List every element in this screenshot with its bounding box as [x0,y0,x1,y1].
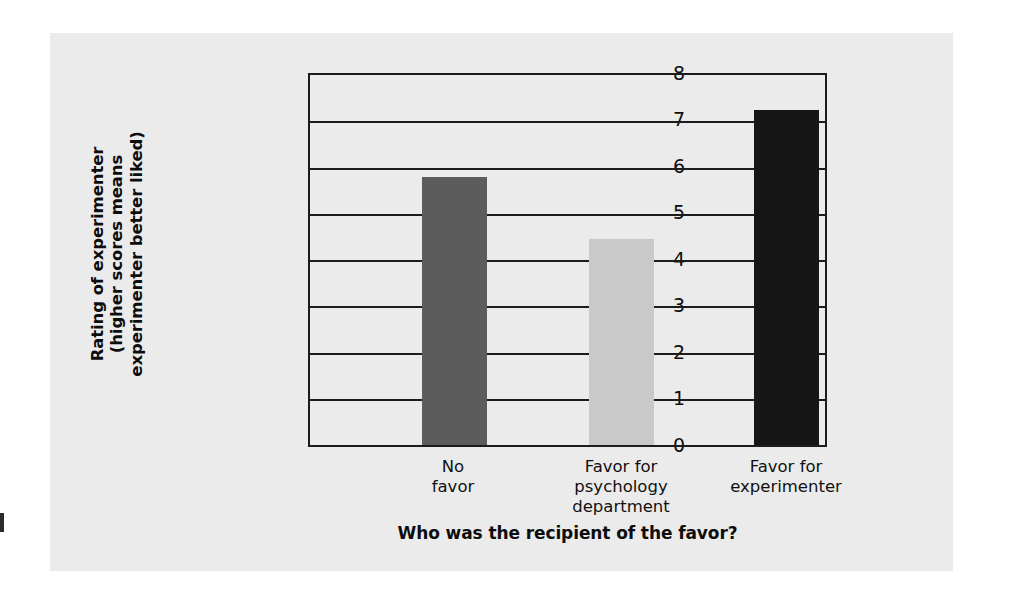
gridline-3 [310,306,825,308]
x-tick-label-exper-line-1: Favor for [696,457,876,477]
x-tick-label-psych-line-2: psychology [531,477,711,497]
y-axis-title: Rating of experimenter (higher scores me… [82,89,152,419]
y-axis-title-line-3: experimenter better liked) [127,131,146,376]
x-tick-label-psych-line-3: department [531,497,711,517]
y-axis-title-line-2: (higher scores means [107,155,126,354]
x-tick-label-favor-for-experimenter: Favor for experimenter [696,457,876,497]
x-tick-label-no-favor: No favor [363,457,543,497]
bar-chart: Rating of experimenter (higher scores me… [50,33,953,571]
bar-no-favor [422,177,487,445]
page-edge-artifact [0,513,4,532]
gridline-1 [310,399,825,401]
gridline-4 [310,260,825,262]
gridline-6 [310,168,825,170]
x-tick-label-exper-line-2: experimenter [696,477,876,497]
gridline-2 [310,353,825,355]
figure-panel: Rating of experimenter (higher scores me… [50,33,953,571]
gridline-5 [310,214,825,216]
plot-area [308,73,827,447]
gridline-7 [310,121,825,123]
bar-favor-for-experimenter [754,110,819,445]
x-tick-label-no-favor-line-2: favor [363,477,543,497]
y-axis-title-line-1: Rating of experimenter [88,147,107,362]
x-axis-title: Who was the recipient of the favor? [308,523,827,543]
bar-favor-for-psychology-department [589,239,654,445]
x-tick-label-psych-line-1: Favor for [531,457,711,477]
x-tick-label-no-favor-line-1: No [363,457,543,477]
x-tick-label-favor-for-psychology-department: Favor for psychology department [531,457,711,517]
